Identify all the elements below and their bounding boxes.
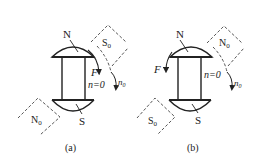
rotation-label-b: n0 xyxy=(234,78,242,89)
rotating-label-n0-b: N0 xyxy=(219,37,230,50)
pole-label-s-b: S xyxy=(195,114,201,126)
force-arrow-b xyxy=(166,52,172,70)
rotating-label-s0-a: S0 xyxy=(102,37,112,50)
rotating-label-s0-b: S0 xyxy=(148,115,158,128)
magnet-top-cap-b xyxy=(170,47,212,57)
rotation-arrow-b xyxy=(227,72,232,88)
figure-a: N S F n=0 S0 n0 N0 (a) xyxy=(18,25,128,154)
speed-label-b: n=0 xyxy=(204,69,221,80)
rotation-arrow-a xyxy=(111,72,116,88)
rotating-pole-bottom-a xyxy=(18,98,60,135)
caption-b: (b) xyxy=(187,142,199,154)
force-label-a: F xyxy=(90,66,98,78)
magnet-body-b xyxy=(178,57,201,100)
force-label-b: F xyxy=(153,63,161,75)
rotation-label-a: n0 xyxy=(118,77,126,88)
caption-a: (a) xyxy=(65,142,76,154)
rotating-label-n0-a: N0 xyxy=(31,114,42,127)
rotating-pole-bottom-b xyxy=(137,98,175,135)
magnet-top-cap-a xyxy=(52,47,94,57)
pole-label-n-a: N xyxy=(63,28,71,40)
magnet-body-a xyxy=(62,57,85,100)
pole-label-s-a: S xyxy=(79,115,85,127)
pole-label-n-b: N xyxy=(176,28,184,40)
figure-b: N S F n=0 N0 n0 S0 (b) xyxy=(137,26,244,154)
speed-label-a: n=0 xyxy=(88,79,105,90)
diagram-canvas: N S F n=0 S0 n0 N0 (a) N S F n=0 N0 n0 S… xyxy=(0,0,260,163)
rotating-pole-top-b xyxy=(207,26,242,72)
magnet-bottom-cap-a xyxy=(52,100,94,111)
magnet-bottom-cap-b xyxy=(169,100,211,111)
